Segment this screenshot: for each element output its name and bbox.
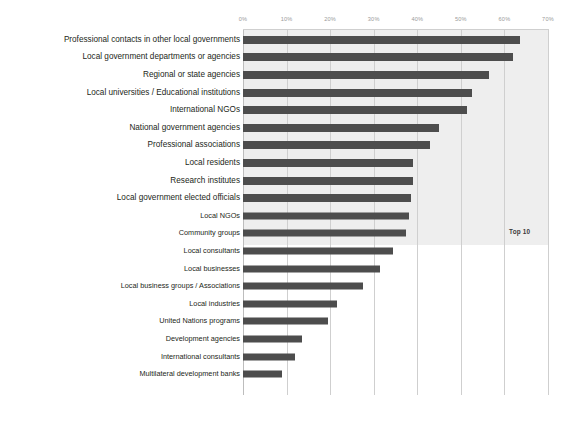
plot-top-rule (243, 29, 549, 30)
category-label: Multilateral development banks (139, 369, 240, 379)
bar-row: International NGOs (0, 101, 571, 119)
category-label: Professional associations (148, 140, 240, 150)
bar (243, 106, 467, 114)
bar-chart: 0%10%20%30%40%50%60%70% Professional con… (0, 0, 571, 421)
bar-row: Local NGOs (0, 207, 571, 225)
category-label: Local universities / Educational institu… (87, 88, 240, 98)
bar-row: Local government elected officials (0, 189, 571, 207)
bar (243, 36, 520, 44)
bar (243, 353, 295, 360)
category-label: Local industries (189, 299, 240, 309)
category-label: Research institutes (170, 176, 240, 186)
x-tick-label: 60% (499, 16, 511, 22)
bar (243, 71, 489, 79)
category-label: Professional contacts in other local gov… (64, 35, 240, 45)
x-tick-label: 0% (239, 16, 248, 22)
bar (243, 177, 413, 185)
category-label: Local government elected officials (117, 193, 240, 203)
x-tick-label: 40% (411, 16, 423, 22)
bar-row: Local businesses (0, 260, 571, 278)
bar (243, 159, 413, 167)
category-label: Local businesses (184, 264, 240, 274)
category-label: National government agencies (129, 123, 240, 133)
category-label: Local consultants (184, 246, 240, 256)
bar-row: National government agencies (0, 119, 571, 137)
category-label: Regional or state agencies (143, 70, 240, 80)
bar-row: Regional or state agencies (0, 66, 571, 84)
category-label: Local government departments or agencies (83, 52, 240, 62)
x-tick-label: 10% (281, 16, 293, 22)
bar (243, 283, 363, 290)
bar (243, 265, 380, 272)
x-tick-label: 70% (542, 16, 554, 22)
bar-row: Development agencies (0, 330, 571, 348)
bar-row: Local government departments or agencies (0, 49, 571, 67)
category-label: Development agencies (166, 334, 240, 344)
x-tick-label: 30% (368, 16, 380, 22)
bar-row: Research institutes (0, 172, 571, 190)
bar (243, 89, 472, 97)
bar-row: Multilateral development banks (0, 365, 571, 383)
category-label: Local NGOs (200, 211, 240, 221)
bar (243, 318, 328, 325)
category-label: International consultants (161, 352, 240, 362)
top10-annotation-label: Top 10 (509, 228, 530, 235)
category-label: Local business groups / Associations (121, 281, 240, 291)
x-tick-label: 20% (324, 16, 336, 22)
bar (243, 124, 439, 132)
bar (243, 212, 409, 219)
bar-row: Local residents (0, 154, 571, 172)
bar-row: Local consultants (0, 242, 571, 260)
category-label: Community groups (179, 228, 240, 238)
bar-row: International consultants (0, 348, 571, 366)
bar-row: Community groups (0, 225, 571, 243)
bar (243, 194, 411, 202)
bar (243, 247, 393, 254)
bar (243, 300, 337, 307)
bar-row: Local industries (0, 295, 571, 313)
bar (243, 230, 406, 237)
bar (243, 335, 302, 342)
bar (243, 141, 430, 149)
bar-row: Professional contacts in other local gov… (0, 31, 571, 49)
bar-row: Local universities / Educational institu… (0, 84, 571, 102)
category-label: United Nations programs (159, 316, 240, 326)
category-label: Local residents (185, 158, 240, 168)
bar (243, 53, 513, 61)
bar-row: United Nations programs (0, 313, 571, 331)
bar-row: Professional associations (0, 137, 571, 155)
x-tick-label: 50% (455, 16, 467, 22)
bar-row: Local business groups / Associations (0, 277, 571, 295)
category-label: International NGOs (170, 105, 240, 115)
bar (243, 371, 282, 378)
